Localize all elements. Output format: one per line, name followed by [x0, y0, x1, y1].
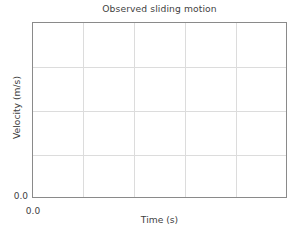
- ytick-label-0: 0.0: [8, 191, 28, 201]
- plot-area: [32, 22, 287, 198]
- grid-layer: [33, 23, 286, 197]
- gridline-vertical: [134, 23, 135, 197]
- y-axis-label: Velocity (m/s): [11, 48, 22, 168]
- gridline-vertical: [236, 23, 237, 197]
- x-axis-label: Time (s): [32, 214, 287, 225]
- chart-title: Observed sliding motion: [0, 3, 299, 15]
- chart-figure: Observed sliding motion 0.0 0.0 Time (s)…: [0, 0, 299, 233]
- gridline-horizontal: [33, 155, 286, 156]
- gridline-horizontal: [33, 111, 286, 112]
- gridline-horizontal: [33, 67, 286, 68]
- gridline-vertical: [83, 23, 84, 197]
- gridline-vertical: [185, 23, 186, 197]
- chart-title-text: Observed sliding motion: [102, 3, 216, 15]
